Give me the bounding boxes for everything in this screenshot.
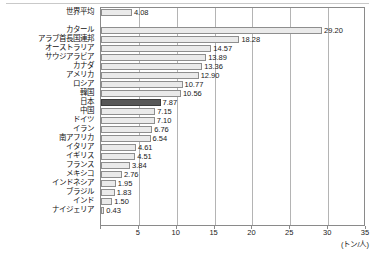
category-label: カタール bbox=[66, 25, 94, 34]
bar-value-label: 4.08 bbox=[132, 8, 149, 17]
category-label: イラン bbox=[73, 124, 94, 133]
category-label: 南アフリカ bbox=[59, 133, 94, 142]
bar bbox=[101, 99, 161, 106]
bar-row: 10.77 bbox=[101, 80, 364, 89]
bar-row: 4.08 bbox=[101, 8, 364, 17]
bar bbox=[101, 135, 151, 142]
x-tick-label: 20 bbox=[247, 228, 255, 238]
category-label: サウジアラビア bbox=[45, 52, 94, 61]
x-tick-label: 30 bbox=[323, 228, 331, 238]
bar-value-label: 1.95 bbox=[116, 179, 133, 188]
category-label: 中国 bbox=[80, 106, 94, 115]
plot-area: 4.0829.2018.2814.5713.8913.3612.9010.771… bbox=[100, 7, 365, 226]
bar bbox=[101, 81, 183, 88]
category-label: イギリス bbox=[66, 151, 94, 160]
bar-row: 10.56 bbox=[101, 89, 364, 98]
bar-row: 12.90 bbox=[101, 71, 364, 80]
bar-rows: 4.0829.2018.2814.5713.8913.3612.9010.771… bbox=[101, 8, 364, 225]
x-tick-mark bbox=[100, 226, 101, 229]
category-label: イタリア bbox=[66, 142, 94, 151]
bar-row: 18.28 bbox=[101, 35, 364, 44]
bar bbox=[101, 54, 206, 61]
bar-row: 1.95 bbox=[101, 179, 364, 188]
bar-value-label: 6.54 bbox=[151, 134, 168, 143]
category-label: ナイジェリア bbox=[52, 205, 94, 214]
bar-row: 14.57 bbox=[101, 44, 364, 53]
x-tick-label: 35 bbox=[361, 228, 369, 238]
x-tick-label: 25 bbox=[285, 228, 293, 238]
x-tick-label: 10 bbox=[172, 228, 180, 238]
bar-value-label: 13.36 bbox=[202, 62, 223, 71]
bar bbox=[101, 36, 239, 43]
category-label: ブラジル bbox=[66, 187, 94, 196]
bar-value-label: 1.83 bbox=[115, 188, 132, 197]
bar-row: 7.87 bbox=[101, 98, 364, 107]
bar bbox=[101, 63, 202, 70]
bar-row: 1.83 bbox=[101, 188, 364, 197]
axis-unit-label: (トン/人) bbox=[341, 240, 369, 250]
bar-value-label: 7.87 bbox=[161, 98, 178, 107]
bar-row: 1.50 bbox=[101, 197, 364, 206]
bar-row: 6.76 bbox=[101, 125, 364, 134]
category-label: アメリカ bbox=[66, 70, 94, 79]
bar bbox=[101, 45, 211, 52]
category-label: ドイツ bbox=[73, 115, 94, 124]
bar-row: 3.84 bbox=[101, 161, 364, 170]
bar-value-label: 18.28 bbox=[239, 35, 260, 44]
bar-row: 4.51 bbox=[101, 152, 364, 161]
category-label: カナダ bbox=[73, 61, 94, 70]
bar-value-label: 10.56 bbox=[181, 89, 202, 98]
category-label: 世界平均 bbox=[66, 7, 94, 16]
bar bbox=[101, 153, 135, 160]
bar-value-label: 2.76 bbox=[122, 170, 139, 179]
bar-value-label: 29.20 bbox=[322, 26, 343, 35]
category-label: インドネシア bbox=[52, 178, 94, 187]
bar-value-label: 10.77 bbox=[183, 80, 204, 89]
bar-value-label: 4.51 bbox=[135, 152, 152, 161]
bar-value-label: 7.10 bbox=[155, 116, 172, 125]
category-label: アラブ首長国連邦 bbox=[38, 34, 94, 43]
bar bbox=[101, 108, 155, 115]
bar-row: 13.36 bbox=[101, 62, 364, 71]
bar-row: 7.15 bbox=[101, 107, 364, 116]
x-tick-label: 15 bbox=[209, 228, 217, 238]
bar-value-label: 4.61 bbox=[136, 143, 153, 152]
bar-value-label: 12.90 bbox=[199, 71, 220, 80]
bar bbox=[101, 72, 199, 79]
bar bbox=[101, 27, 322, 34]
bar-value-label: 6.76 bbox=[152, 125, 169, 134]
bar bbox=[101, 126, 152, 133]
bar bbox=[101, 189, 115, 196]
bar-value-label: 3.84 bbox=[130, 161, 147, 170]
bar bbox=[101, 162, 130, 169]
bar-value-label: 0.43 bbox=[104, 206, 121, 215]
bar-chart: 世界平均カタールアラブ首長国連邦オーストラリアサウジアラビアカナダアメリカロシア… bbox=[0, 0, 375, 255]
bar-row: 29.20 bbox=[101, 26, 364, 35]
category-axis-labels: 世界平均カタールアラブ首長国連邦オーストラリアサウジアラビアカナダアメリカロシア… bbox=[0, 7, 97, 226]
category-label: 日本 bbox=[80, 97, 94, 106]
category-label: インド bbox=[73, 196, 94, 205]
bar bbox=[101, 198, 112, 205]
bar-row: 6.54 bbox=[101, 134, 364, 143]
bar-value-label: 13.89 bbox=[206, 53, 227, 62]
top-divider bbox=[6, 3, 369, 4]
category-label: フランス bbox=[66, 160, 94, 169]
bar bbox=[101, 90, 181, 97]
bar-value-label: 7.15 bbox=[155, 107, 172, 116]
x-axis: 5101520253035 bbox=[100, 226, 365, 240]
category-label: 韓国 bbox=[80, 88, 94, 97]
bar bbox=[101, 144, 136, 151]
bar bbox=[101, 117, 155, 124]
bar bbox=[101, 171, 122, 178]
category-label: メキシコ bbox=[66, 169, 94, 178]
bar-row: 7.10 bbox=[101, 116, 364, 125]
bar-row: 13.89 bbox=[101, 53, 364, 62]
bar bbox=[101, 9, 132, 16]
x-tick-label: 5 bbox=[136, 228, 140, 238]
bar-value-label: 1.50 bbox=[112, 197, 129, 206]
category-label: ロシア bbox=[73, 79, 94, 88]
bar bbox=[101, 180, 116, 187]
category-label: オーストラリア bbox=[45, 43, 94, 52]
bar-row: 4.61 bbox=[101, 143, 364, 152]
bar-row: 0.43 bbox=[101, 206, 364, 215]
